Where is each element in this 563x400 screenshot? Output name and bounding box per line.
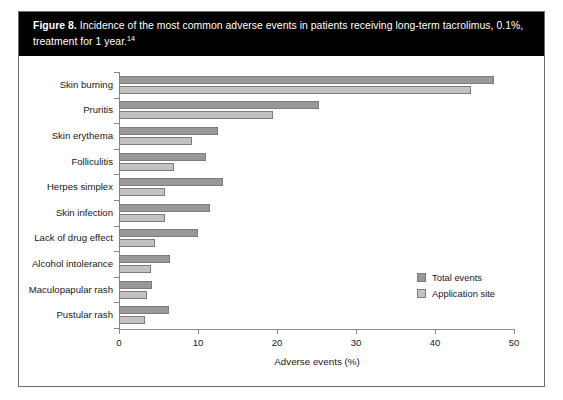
y-axis-label-pruritis: Pruritis <box>83 104 113 115</box>
legend-label: Application site <box>432 288 495 299</box>
bar-folliculitis-total-events <box>119 153 206 161</box>
legend-swatch-icon <box>417 273 426 282</box>
x-axis-tick-0 <box>119 329 120 334</box>
legend-label: Total events <box>432 272 482 283</box>
y-axis-label-herpes-simplex: Herpes simplex <box>47 181 113 192</box>
x-axis-title: Adverse events (%) <box>119 356 515 367</box>
figure-caption-bar: Figure 8. Incidence of the most common a… <box>19 12 544 56</box>
bar-maculopapular-rash-application-site <box>119 291 147 299</box>
x-axis-tick-label-10: 10 <box>193 337 204 348</box>
bar-lack-of-drug-effect-application-site <box>119 239 155 247</box>
y-axis-tick <box>114 200 119 201</box>
x-axis-tick-30 <box>356 329 357 334</box>
bar-herpes-simplex-application-site <box>119 188 165 196</box>
chart-legend: Total eventsApplication site <box>417 270 495 302</box>
bar-pustular-rash-application-site <box>119 316 145 324</box>
x-axis-tick-10 <box>198 329 199 334</box>
bar-lack-of-drug-effect-total-events <box>119 229 198 237</box>
y-axis-label-skin-erythema: Skin erythema <box>52 130 113 141</box>
figure-caption-reference: 14 <box>127 33 135 42</box>
x-axis-tick-40 <box>435 329 436 334</box>
bar-maculopapular-rash-total-events <box>119 281 152 289</box>
bar-skin-burning-total-events <box>119 76 494 84</box>
bar-herpes-simplex-total-events <box>119 178 223 186</box>
y-axis-label-alcohol-intolerance: Alcohol intolerance <box>32 258 113 269</box>
bar-pruritis-total-events <box>119 101 319 109</box>
bar-pustular-rash-total-events <box>119 306 169 314</box>
x-axis-tick-20 <box>277 329 278 334</box>
figure-container: Figure 8. Incidence of the most common a… <box>18 11 545 387</box>
bar-alcohol-intolerance-application-site <box>119 265 151 273</box>
x-axis-tick-label-30: 30 <box>351 337 362 348</box>
y-axis-tick <box>114 302 119 303</box>
y-axis-tick <box>114 72 119 73</box>
bar-folliculitis-application-site <box>119 163 174 171</box>
bar-skin-erythema-total-events <box>119 127 218 135</box>
x-axis-tick-label-40: 40 <box>430 337 441 348</box>
y-axis-category-labels: Skin burningPruritisSkin erythemaFollicu… <box>19 72 113 328</box>
figure-caption-body: Incidence of the most common adverse eve… <box>33 20 523 47</box>
legend-item-application-site: Application site <box>417 286 495 300</box>
x-axis-tick-50 <box>514 329 515 334</box>
y-axis-tick <box>114 226 119 227</box>
figure-caption-text: Figure 8. Incidence of the most common a… <box>33 18 530 49</box>
bar-skin-infection-application-site <box>119 214 165 222</box>
legend-item-total-events: Total events <box>417 270 495 284</box>
bar-alcohol-intolerance-total-events <box>119 255 170 263</box>
legend-swatch-icon <box>417 289 426 298</box>
y-axis-label-folliculitis: Folliculitis <box>71 156 113 167</box>
y-axis-label-skin-burning: Skin burning <box>60 79 113 90</box>
y-axis-tick <box>114 251 119 252</box>
figure-caption-label: Figure 8. <box>33 20 77 31</box>
x-axis-tick-label-20: 20 <box>272 337 283 348</box>
y-axis-tick <box>114 277 119 278</box>
y-axis-label-pustular-rash: Pustular rash <box>56 309 113 320</box>
chart-plot-wrapper: Skin burningPruritisSkin erythemaFollicu… <box>19 56 544 387</box>
y-axis-label-maculopapular-rash: Maculopapular rash <box>29 284 113 295</box>
bar-skin-infection-total-events <box>119 204 210 212</box>
y-axis-tick <box>114 149 119 150</box>
y-axis-label-skin-infection: Skin infection <box>56 207 113 218</box>
x-axis-tick-label-0: 0 <box>116 337 121 348</box>
bar-skin-erythema-application-site <box>119 137 192 145</box>
y-axis-tick <box>114 98 119 99</box>
y-axis-label-lack-of-drug-effect: Lack of drug effect <box>34 232 113 243</box>
x-axis-tick-label-50: 50 <box>509 337 520 348</box>
x-axis-line <box>119 329 515 330</box>
bar-pruritis-application-site <box>119 111 273 119</box>
y-axis-tick <box>114 123 119 124</box>
bar-skin-burning-application-site <box>119 86 471 94</box>
y-axis-tick <box>114 174 119 175</box>
